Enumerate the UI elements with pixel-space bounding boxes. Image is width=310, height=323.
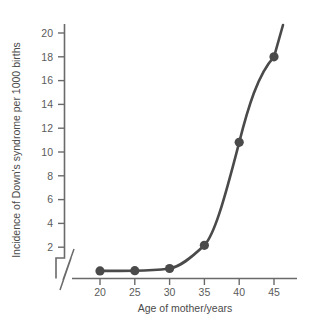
chart-canvas: 20 18 16 14 12 10 8 6 4 2	[0, 0, 310, 323]
y-tick-label-2: 2	[47, 241, 53, 253]
y-tick-label-4: 4	[47, 217, 53, 229]
data-points	[95, 52, 278, 275]
y-axis-tick-labels: 20 18 16 14 12 10 8 6 4 2	[41, 27, 53, 253]
x-axis-ticks	[100, 279, 274, 286]
data-point-age-45	[269, 52, 278, 61]
y-axis-spine	[56, 24, 65, 279]
data-point-age-35	[200, 241, 209, 250]
x-tick-label-20: 20	[94, 286, 106, 298]
data-point-age-40	[235, 138, 244, 147]
x-tick-label-40: 40	[233, 286, 245, 298]
y-axis-ticks	[58, 33, 65, 247]
y-tick-label-20: 20	[41, 27, 53, 39]
x-tick-label-45: 45	[268, 286, 280, 298]
data-series-line	[100, 25, 283, 271]
incidence-curve	[100, 25, 283, 271]
x-tick-label-35: 35	[199, 286, 211, 298]
data-point-age-25	[130, 266, 139, 275]
chart-container: 20 18 16 14 12 10 8 6 4 2	[0, 0, 310, 323]
x-tick-label-25: 25	[129, 286, 141, 298]
y-tick-label-6: 6	[47, 193, 53, 205]
y-tick-label-18: 18	[41, 51, 53, 63]
x-axis-title: Age of mother/years	[138, 302, 233, 314]
axis-break-zigzag-icon	[60, 249, 74, 290]
axis-break-stroke	[60, 249, 74, 290]
y-tick-label-12: 12	[41, 122, 53, 134]
x-tick-label-30: 30	[164, 286, 176, 298]
y-axis	[56, 24, 65, 279]
y-tick-label-10: 10	[41, 146, 53, 158]
data-point-age-30	[165, 264, 174, 273]
y-tick-label-14: 14	[41, 98, 53, 110]
y-axis-title: Incidence of Down's syndrome per 1000 bi…	[10, 42, 22, 258]
y-tick-label-16: 16	[41, 74, 53, 86]
data-point-age-20	[95, 266, 104, 275]
y-tick-label-8: 8	[47, 170, 53, 182]
x-axis-tick-labels: 20 25 30 35 40 45	[94, 286, 280, 298]
